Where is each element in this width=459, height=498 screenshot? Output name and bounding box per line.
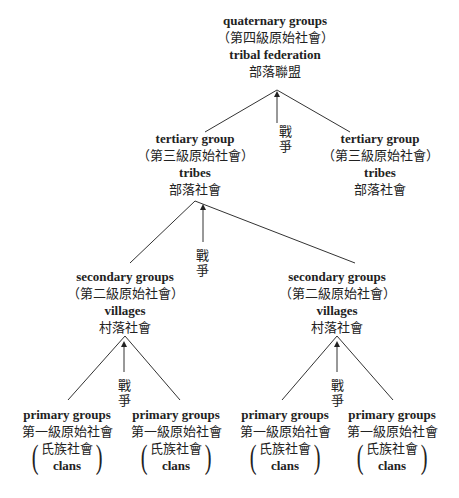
edge-label-war: 戰爭: [330, 378, 344, 408]
node-quaternary-groups: quaternary groups （第四級原始社會） tribal feder…: [217, 12, 334, 80]
node-primary-groups-3: primary groups 第一級原始社會 ( 氏族社會 clans ): [240, 406, 331, 474]
open-paren: (: [141, 440, 148, 474]
close-paren: ): [420, 440, 427, 474]
open-paren: (: [250, 440, 257, 474]
node-en2: clans: [366, 457, 418, 474]
node-zh: 部落聯盟: [217, 63, 334, 80]
node-en2: tribes: [322, 164, 439, 181]
node-secondary-groups-left: secondary groups （第二級原始社會） villages 村落社會: [67, 268, 184, 336]
close-paren: ): [95, 440, 102, 474]
node-zh: 氏族社會: [259, 440, 311, 457]
node-en: primary groups: [131, 406, 222, 423]
node-en: quaternary groups: [217, 12, 334, 29]
node-zh-level: （第三級原始社會）: [137, 147, 254, 164]
open-paren: (: [32, 440, 39, 474]
node-en: primary groups: [347, 406, 438, 423]
node-primary-groups-4: primary groups 第一級原始社會 ( 氏族社會 clans ): [347, 406, 438, 474]
node-en: secondary groups: [279, 268, 396, 285]
node-zh: 氏族社會: [150, 440, 202, 457]
node-en: secondary groups: [67, 268, 184, 285]
node-en2: villages: [279, 302, 396, 319]
node-en2: tribal federation: [217, 46, 334, 63]
close-paren: ): [204, 440, 211, 474]
node-zh: 村落社會: [67, 319, 184, 336]
node-en: tertiary group: [322, 130, 439, 147]
node-primary-groups-1: primary groups 第一級原始社會 ( 氏族社會 clans ): [22, 406, 113, 474]
edge-label-war: 戰爭: [278, 124, 292, 154]
edge-label-war: 戰爭: [195, 248, 209, 278]
node-en: primary groups: [240, 406, 331, 423]
node-secondary-groups-right: secondary groups （第二級原始社會） villages 村落社會: [279, 268, 396, 336]
node-zh: 村落社會: [279, 319, 396, 336]
edge-label-war: 戰爭: [117, 378, 131, 408]
node-en2: tribes: [137, 164, 254, 181]
node-en: tertiary group: [137, 130, 254, 147]
node-zh-level: （第四級原始社會）: [217, 29, 334, 46]
node-zh-level: （第二級原始社會）: [67, 285, 184, 302]
node-zh-level: （第三級原始社會）: [322, 147, 439, 164]
node-zh: 氏族社會: [41, 440, 93, 457]
close-paren: ): [313, 440, 320, 474]
node-en2: villages: [67, 302, 184, 319]
open-paren: (: [357, 440, 364, 474]
node-en: primary groups: [22, 406, 113, 423]
node-en2: clans: [259, 457, 311, 474]
node-en2: clans: [41, 457, 93, 474]
node-zh: 氏族社會: [366, 440, 418, 457]
node-zh: 部落社會: [137, 181, 254, 198]
node-zh: 部落社會: [322, 181, 439, 198]
node-zh-level: （第二級原始社會）: [279, 285, 396, 302]
node-tertiary-group-right: tertiary group （第三級原始社會） tribes 部落社會: [322, 130, 439, 198]
node-primary-groups-2: primary groups 第一級原始社會 ( 氏族社會 clans ): [131, 406, 222, 474]
node-tertiary-group-left: tertiary group （第三級原始社會） tribes 部落社會: [137, 130, 254, 198]
node-en2: clans: [150, 457, 202, 474]
